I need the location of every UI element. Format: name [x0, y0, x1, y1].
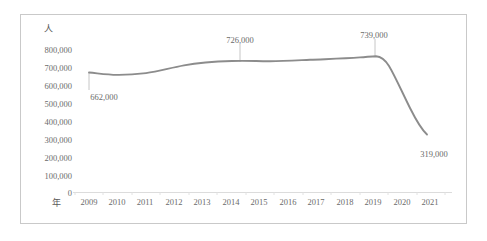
annotation-leader-lines [89, 39, 375, 90]
chart-screenshot: 人 年 800,000 700,000 600,000 500,000 400,… [0, 0, 487, 241]
data-series-line [89, 56, 427, 134]
chart-plot-area [0, 0, 487, 241]
